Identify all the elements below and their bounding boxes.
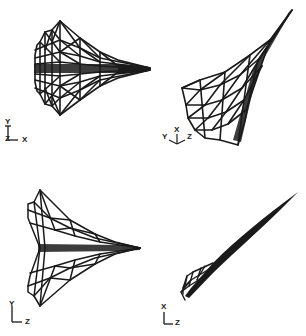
axis-label-y: Y <box>162 133 167 141</box>
view-panel-bottom-right: X Z <box>153 168 306 336</box>
axis-label-y: Y <box>9 300 14 308</box>
axis-triad-icon <box>169 134 185 144</box>
axis-triad-icon <box>164 312 173 324</box>
axis-label-z: Z <box>25 318 30 326</box>
axis-label-y: Y <box>5 118 10 126</box>
wireframe-mesh-isometric-view <box>153 0 306 168</box>
view-panel-top-right: Y X Z <box>153 0 306 168</box>
axis-label-x: X <box>161 303 166 311</box>
axis-label-z: Z <box>187 133 192 141</box>
wireframe-mesh-xz-view <box>153 168 306 336</box>
wireframe-mesh-yz-view <box>0 168 153 336</box>
axis-triad-icon <box>12 306 22 322</box>
axis-label-x: X <box>22 136 27 144</box>
view-panel-top-left: Z X <box>0 0 153 168</box>
axis-label-z: Z <box>175 319 180 327</box>
axis-label-x: X <box>174 126 179 134</box>
view-panel-bottom-left: Y Z <box>0 168 153 336</box>
axis-label-z: Z <box>5 135 10 143</box>
